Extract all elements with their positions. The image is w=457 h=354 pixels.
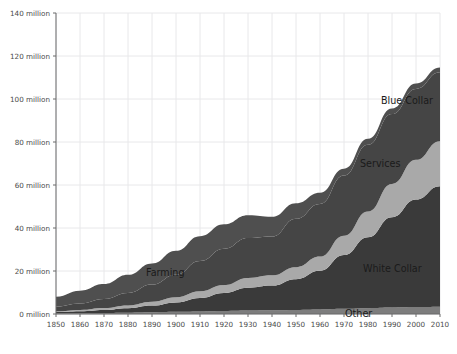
x-tick-label: 1980 [359, 320, 378, 329]
x-tick-label: 1900 [167, 320, 186, 329]
y-tick-label: 80 million [15, 138, 50, 147]
x-tick-label: 1950 [287, 320, 306, 329]
y-tick-label: 100 million [10, 95, 50, 104]
x-tick-label: 1940 [263, 320, 282, 329]
stacked-area-chart: 0 million20 million40 million60 million8… [0, 0, 457, 354]
series-label-other: Other [345, 308, 372, 319]
x-tick-label: 1960 [311, 320, 330, 329]
x-tick-label: 1880 [119, 320, 138, 329]
x-tick-label: 1870 [95, 320, 114, 329]
x-tick-label: 1930 [239, 320, 258, 329]
x-tick-label: 2010 [431, 320, 450, 329]
y-tick-label: 60 million [15, 181, 50, 190]
x-tick-label: 1920 [215, 320, 234, 329]
series-label-white-collar: White Collar [363, 263, 422, 274]
x-tick-label: 1890 [143, 320, 162, 329]
x-tick-label: 1860 [71, 320, 90, 329]
series-label-services: Services [360, 158, 400, 169]
y-tick-label: 40 million [15, 224, 50, 233]
series-label-blue-collar: Blue Collar [381, 95, 433, 106]
series-label-farming: Farming [146, 267, 184, 278]
chart-canvas: 0 million20 million40 million60 million8… [0, 0, 457, 354]
y-tick-label: 120 million [10, 52, 50, 61]
y-tick-label: 140 million [10, 9, 50, 18]
x-tick-label: 1850 [47, 320, 66, 329]
x-tick-label: 1970 [335, 320, 354, 329]
y-tick-label: 0 million [19, 310, 50, 319]
x-tick-label: 2000 [407, 320, 426, 329]
y-tick-label: 20 million [15, 267, 50, 276]
x-tick-label: 1990 [383, 320, 402, 329]
chart-svg: 0 million20 million40 million60 million8… [0, 0, 457, 354]
x-tick-label: 1910 [191, 320, 210, 329]
